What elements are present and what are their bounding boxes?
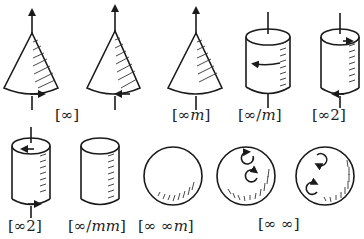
cylinder-top [81,138,119,154]
cylinder-hatching [349,44,355,82]
cone-outline [168,33,222,94]
rotation-arrow-icon [255,63,280,65]
cylinder-hatching [108,154,114,198]
rotation-circle-icon [241,152,253,164]
cylinder-2 [321,13,359,108]
cone-hatching [197,40,217,82]
rotation-circle-icon [245,170,257,182]
label-infinity-over-m: [∞/m] [238,106,282,124]
cone-3 [168,10,222,110]
cone-hatching [33,40,55,88]
sphere-shading [228,169,269,201]
rotation-circle-icon [306,182,317,194]
cone-1 [4,12,58,110]
sphere-3 [296,147,354,205]
label-infinity-2: [∞2] [312,106,346,124]
sphere-shading [158,182,194,201]
sphere-outline [144,147,202,205]
label-infinity: [∞] [55,106,79,124]
sphere-1 [144,147,202,205]
rotation-circle-icon [317,154,327,166]
cylinder-3 [12,127,50,218]
cone-hatching [115,38,137,88]
cylinder-4 [81,138,119,205]
label-infinity-m: [∞m] [172,106,210,124]
cylinder-1 [246,12,290,108]
cone-outline [87,31,140,94]
cylinder-bottom [81,199,119,205]
cylinder-bottom [321,88,359,94]
cylinder-hatching [280,42,286,86]
sphere-2 [217,147,275,205]
cylinder-hatching [40,154,46,192]
label-infinity-2-bottom: [∞2] [8,217,42,235]
cylinder-bottom [246,87,290,94]
cone-2 [87,8,140,110]
label-infinity-infinity-m: [∞ ∞m] [138,217,194,235]
label-infinity-over-mm: [∞/mm] [68,217,126,235]
cone-outline [4,33,58,94]
label-infinity-infinity: [∞ ∞] [258,215,299,233]
curie-groups-diagram: [∞] [∞m] [∞/m] [0,0,364,239]
